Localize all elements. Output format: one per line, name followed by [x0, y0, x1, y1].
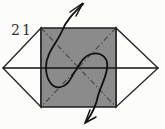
- origami-step-figure: 21: [0, 0, 165, 129]
- diagram-canvas: 21: [0, 0, 165, 129]
- step-number-label: 21: [11, 22, 33, 38]
